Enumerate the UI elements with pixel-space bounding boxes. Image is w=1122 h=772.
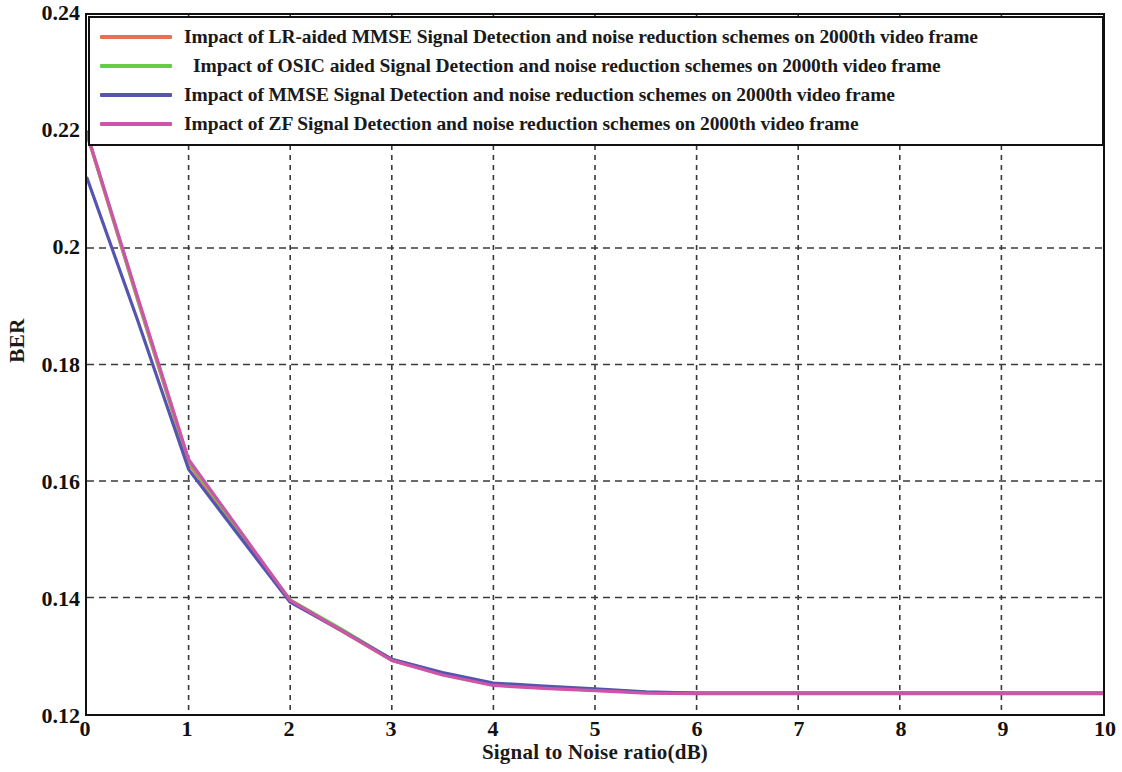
y-tick-label: 0.16 bbox=[6, 471, 80, 493]
legend-item[interactable]: Impact of LR-aided MMSE Signal Detection… bbox=[90, 22, 1102, 51]
legend-item-label: Impact of MMSE Signal Detection and nois… bbox=[184, 84, 895, 106]
x-tick-label: 8 bbox=[871, 718, 931, 740]
y-tick-label: 0.24 bbox=[6, 2, 80, 24]
legend-color-swatch bbox=[100, 122, 172, 126]
legend-item[interactable]: Impact of OSIC aided Signal Detection an… bbox=[90, 51, 1102, 80]
legend-item-label: Impact of OSIC aided Signal Detection an… bbox=[184, 55, 941, 77]
legend-item[interactable]: Impact of MMSE Signal Detection and nois… bbox=[90, 80, 1102, 109]
legend-item-label: Impact of ZF Signal Detection and noise … bbox=[184, 113, 859, 135]
y-tick-label: 0.14 bbox=[6, 588, 80, 610]
x-tick-label: 2 bbox=[259, 718, 319, 740]
x-tick-label: 4 bbox=[463, 718, 523, 740]
x-tick-label: 1 bbox=[157, 718, 217, 740]
x-tick-label: 7 bbox=[769, 718, 829, 740]
legend-color-swatch bbox=[100, 64, 172, 68]
legend-color-swatch bbox=[100, 35, 172, 39]
x-tick-label: 9 bbox=[973, 718, 1033, 740]
x-axis-title: Signal to Noise ratio(dB) bbox=[85, 740, 1105, 765]
legend-item[interactable]: Impact of ZF Signal Detection and noise … bbox=[90, 109, 1102, 138]
chart-legend: Impact of LR-aided MMSE Signal Detection… bbox=[88, 16, 1104, 146]
y-tick-label: 0.18 bbox=[6, 354, 80, 376]
y-axis-tick-labels: 0.240.220.20.180.160.140.12 bbox=[0, 0, 80, 772]
legend-item-label: Impact of LR-aided MMSE Signal Detection… bbox=[184, 26, 978, 48]
x-tick-label: 10 bbox=[1075, 718, 1122, 740]
x-tick-label: 5 bbox=[565, 718, 625, 740]
x-tick-label: 0 bbox=[55, 718, 115, 740]
x-tick-label: 6 bbox=[667, 718, 727, 740]
y-tick-label: 0.2 bbox=[6, 236, 80, 258]
legend-color-swatch bbox=[100, 93, 172, 97]
x-tick-label: 3 bbox=[361, 718, 421, 740]
chart-figure: BER 0.240.220.20.180.160.140.12 Impact o… bbox=[0, 0, 1122, 772]
y-tick-label: 0.22 bbox=[6, 119, 80, 141]
